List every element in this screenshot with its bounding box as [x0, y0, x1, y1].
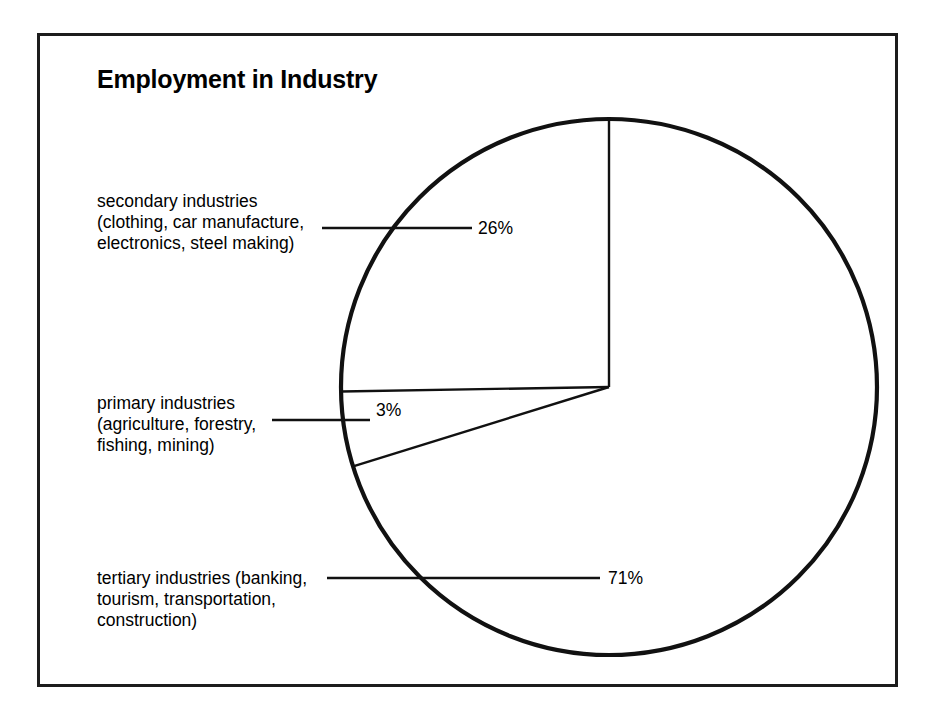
- label-secondary-line-3: electronics, steel making): [97, 233, 294, 253]
- slice-divider-secondary-primary: [341, 387, 609, 392]
- label-primary-line-1: primary industries: [97, 393, 235, 413]
- label-tertiary-line-3: construction): [97, 610, 197, 630]
- pie-chart: Employment in Industry secondary industr…: [0, 0, 934, 719]
- label-primary-industries: primary industries (agriculture, forestr…: [97, 393, 256, 455]
- slice-divider-primary-tertiary: [353, 387, 609, 466]
- value-label-secondary: 26%: [478, 218, 513, 238]
- label-tertiary-line-1: tertiary industries (banking,: [97, 568, 307, 588]
- label-tertiary-industries: tertiary industries (banking, tourism, t…: [97, 568, 307, 630]
- label-primary-line-3: fishing, mining): [97, 435, 215, 455]
- label-secondary-industries: secondary industries (clothing, car manu…: [97, 191, 304, 253]
- value-label-primary: 3%: [376, 400, 401, 420]
- label-primary-line-2: (agriculture, forestry,: [97, 414, 256, 434]
- value-label-tertiary: 71%: [608, 568, 643, 588]
- label-tertiary-line-2: tourism, transportation,: [97, 589, 276, 609]
- page-title: Employment in Industry: [97, 65, 378, 93]
- label-secondary-line-1: secondary industries: [97, 191, 258, 211]
- figure-container: Employment in Industry secondary industr…: [0, 0, 934, 719]
- label-secondary-line-2: (clothing, car manufacture,: [97, 212, 304, 232]
